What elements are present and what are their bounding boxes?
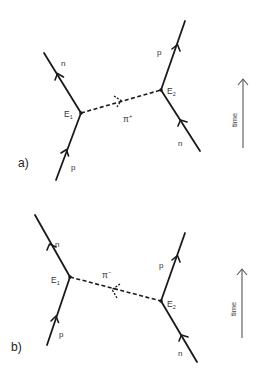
panel-a-label-e2: E2 [167,86,176,97]
panel-b-label-e2: E2 [167,299,176,310]
panel-b-label-pion: π− [102,269,111,280]
panel-a-time-label: time [230,113,239,127]
panel-a-label-n-out: n [61,59,65,68]
panel-b-label-p-in: p [59,330,64,339]
panel-b-time-label: time [229,302,238,316]
panel-b-label-n-in: n [178,349,182,358]
panel-a: n p p n E1 E2 π+ a) time [18,21,248,180]
panel-a-proton-in-line [56,113,81,180]
panel-a-label-p-in: p [71,163,76,172]
panel-a-label-p-out: p [157,48,162,57]
panel-b-label-e1: E1 [51,275,60,286]
panel-a-pion-line [81,90,161,113]
panel-b-label-p-out: p [159,261,164,270]
panel-a-caption: a) [18,156,29,170]
panel-b-proton-out-line [161,233,185,301]
panel-b-pion-line [70,277,161,301]
panel-a-label-pion: π+ [123,113,132,124]
panel-a-label-n-in: n [178,139,182,148]
feynman-diagram-canvas: n p p n E1 E2 π+ a) time n p [0,0,263,378]
panel-b-pion-arrow-icon [112,284,120,298]
panel-a-label-e1: E1 [64,109,73,120]
panel-b: n p p n E1 E2 π− b) time [11,215,247,362]
panel-b-label-n-out: n [55,240,59,249]
panel-a-proton-out-line [161,21,185,90]
panel-b-caption: b) [11,340,22,354]
